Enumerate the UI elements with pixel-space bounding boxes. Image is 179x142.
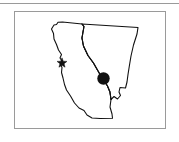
primary-site-marker (97, 72, 109, 84)
figure-root (0, 0, 179, 142)
map-graphic (0, 0, 179, 142)
